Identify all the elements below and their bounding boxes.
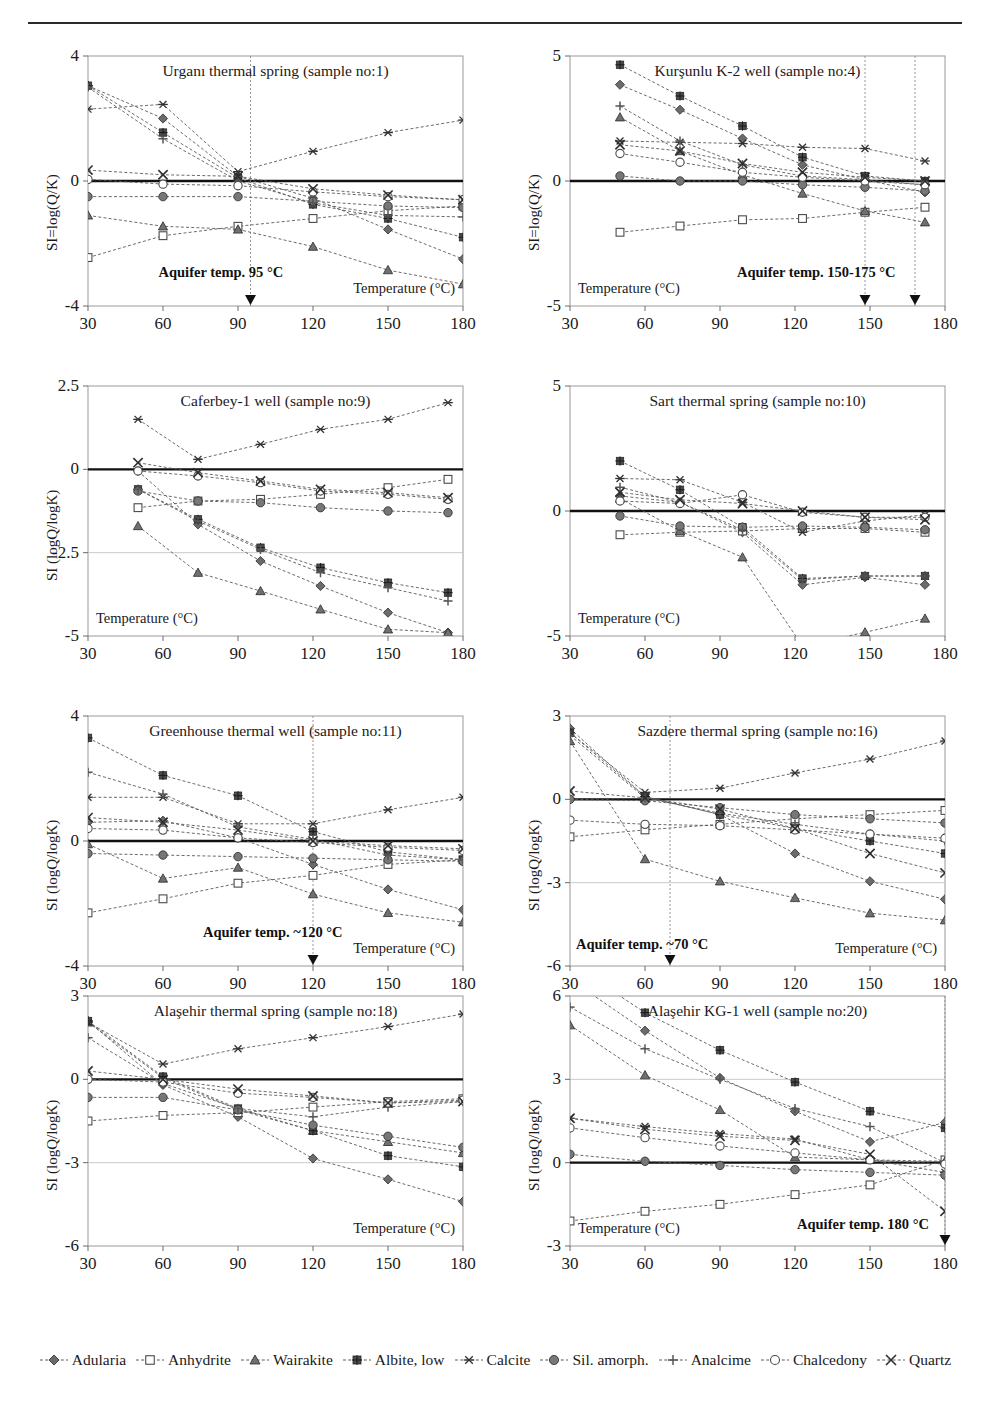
legend-item: Anhydrite <box>135 1351 231 1369</box>
legend-marker-calcite-icon <box>454 1352 484 1368</box>
x-tick-label: 90 <box>712 644 729 664</box>
x-axis-caption: Temperature (°C) <box>578 610 680 627</box>
x-tick-label: 30 <box>562 644 579 664</box>
y-tick-label: 0 <box>521 789 561 809</box>
x-tick-label: 180 <box>932 1254 958 1274</box>
x-tick-label: 150 <box>375 314 401 334</box>
y-tick-label: 3 <box>521 1069 561 1089</box>
x-tick-label: 120 <box>782 1254 808 1274</box>
y-axis-label: SI (logQ/logK) <box>526 1100 543 1191</box>
x-tick-label: 150 <box>857 644 883 664</box>
x-tick-label: 150 <box>375 1254 401 1274</box>
legend-item: Adularia <box>39 1351 126 1369</box>
y-axis-label: SI (logQ/logK) <box>44 490 61 581</box>
legend-item: Sil. amorph. <box>539 1351 648 1369</box>
x-tick-label: 120 <box>782 314 808 334</box>
legend-marker-albite-low-icon <box>342 1352 372 1368</box>
y-tick-label: -5 <box>521 626 561 646</box>
x-tick-label: 30 <box>562 314 579 334</box>
y-tick-label: 5 <box>521 46 561 66</box>
y-axis-label: SI=log(Q/K) <box>44 174 61 251</box>
chart-title: Urganı thermal spring (sample no:1) <box>162 62 388 80</box>
aquifer-temp-label: Aquifer temp. ~120 °C <box>203 924 343 941</box>
x-axis-caption: Temperature (°C) <box>96 610 198 627</box>
x-axis-caption: Temperature (°C) <box>353 940 455 957</box>
y-tick-label: -4 <box>39 956 79 976</box>
legend-label: Quartz <box>909 1351 951 1369</box>
legend-marker-adularia-icon <box>39 1352 69 1368</box>
chart-panel-caferbey: -5-2.502.5306090120150180SI (logQ/logK)C… <box>28 364 480 664</box>
x-tick-label: 30 <box>562 1254 579 1274</box>
x-tick-label: 30 <box>80 1254 97 1274</box>
legend-item: Chalcedony <box>760 1351 867 1369</box>
x-tick-label: 90 <box>230 1254 247 1274</box>
x-tick-label: 60 <box>155 644 172 664</box>
legend-label: Albite, low <box>375 1351 445 1369</box>
chart-title: Caferbey-1 well (sample no:9) <box>181 392 371 410</box>
x-tick-label: 150 <box>857 314 883 334</box>
x-tick-label: 180 <box>450 644 476 664</box>
legend-label: Anhydrite <box>168 1351 231 1369</box>
aquifer-temp-label: Aquifer temp. 180 °C <box>797 1216 929 1233</box>
x-tick-label: 120 <box>782 644 808 664</box>
chart-title: Sazdere thermal spring (sample no:16) <box>637 722 877 740</box>
x-axis-caption: Temperature (°C) <box>578 280 680 297</box>
chart-title: Alaşehir KG-1 well (sample no:20) <box>648 1002 868 1020</box>
x-axis-caption: Temperature (°C) <box>835 940 937 957</box>
y-tick-label: 3 <box>39 986 79 1006</box>
chart-panel-greenhouse: -404306090120150180SI (logQ/logK)Greenho… <box>28 694 480 994</box>
chart-panel-kursunlu: -505306090120150180SI=log(Q/K)Kurşunlu K… <box>510 34 962 334</box>
y-tick-label: -6 <box>39 1236 79 1256</box>
x-tick-label: 150 <box>375 644 401 664</box>
chart-title: Greenhouse thermal well (sample no:11) <box>149 722 402 740</box>
y-tick-label: 0 <box>521 501 561 521</box>
legend-marker-sil-amorph-icon <box>539 1352 569 1368</box>
legend-marker-quartz-icon <box>876 1352 906 1368</box>
chart-panel-urganli: -404306090120150180SI=log(Q/K)Urganı the… <box>28 34 480 334</box>
x-tick-label: 90 <box>230 644 247 664</box>
x-tick-label: 120 <box>300 1254 326 1274</box>
y-axis-label: SI (logQ/logK) <box>44 1100 61 1191</box>
legend-label: Wairakite <box>273 1351 333 1369</box>
y-tick-label: -5 <box>521 296 561 316</box>
legend-label: Sil. amorph. <box>572 1351 648 1369</box>
legend-label: Calcite <box>487 1351 531 1369</box>
legend-item: Quartz <box>876 1351 951 1369</box>
y-tick-label: 5 <box>521 376 561 396</box>
y-tick-label: 0 <box>39 1069 79 1089</box>
legend-marker-analcime-icon <box>658 1352 688 1368</box>
y-tick-label: -6 <box>521 956 561 976</box>
y-axis-label: SI=log(Q/K) <box>526 174 543 251</box>
chart-grid: -404306090120150180SI=log(Q/K)Urganı the… <box>0 34 990 1324</box>
x-tick-label: 150 <box>857 1254 883 1274</box>
x-tick-label: 120 <box>300 314 326 334</box>
legend-marker-anhydrite-icon <box>135 1352 165 1368</box>
legend-label: Chalcedony <box>793 1351 867 1369</box>
x-axis-caption: Temperature (°C) <box>353 280 455 297</box>
chart-panel-alasehir-kg1: -3036306090120150180SI (logQ/logK)Alaşeh… <box>510 974 962 1274</box>
x-tick-label: 90 <box>712 1254 729 1274</box>
x-tick-label: 60 <box>637 644 654 664</box>
chart-title: Alaşehir thermal spring (sample no:18) <box>154 1002 398 1020</box>
chart-panel-sart: -505306090120150180Sart thermal spring (… <box>510 364 962 664</box>
chart-title: Sart thermal spring (sample no:10) <box>649 392 865 410</box>
y-tick-label: -4 <box>39 296 79 316</box>
figure-page: -404306090120150180SI=log(Q/K)Urganı the… <box>0 0 990 1401</box>
y-tick-label: -3 <box>521 1236 561 1256</box>
y-axis-label: SI (logQ/logK) <box>526 820 543 911</box>
y-tick-label: 0 <box>39 459 79 479</box>
chart-panel-alasehir-spring: -6-303306090120150180SI (logQ/logK)Alaşe… <box>28 974 480 1274</box>
x-tick-label: 90 <box>712 314 729 334</box>
y-tick-label: 3 <box>521 706 561 726</box>
legend-item: Albite, low <box>342 1351 445 1369</box>
x-tick-label: 180 <box>450 314 476 334</box>
chart-title: Kurşunlu K-2 well (sample no:4) <box>655 62 861 80</box>
x-tick-label: 180 <box>932 644 958 664</box>
y-tick-label: 6 <box>521 986 561 1006</box>
legend-marker-wairakite-icon <box>240 1352 270 1368</box>
y-axis-label: SI (logQ/logK) <box>44 820 61 911</box>
x-tick-label: 60 <box>155 1254 172 1274</box>
aquifer-temp-label: Aquifer temp. 95 °C <box>159 264 284 281</box>
legend-item: Calcite <box>454 1351 531 1369</box>
header-rule <box>28 22 962 24</box>
